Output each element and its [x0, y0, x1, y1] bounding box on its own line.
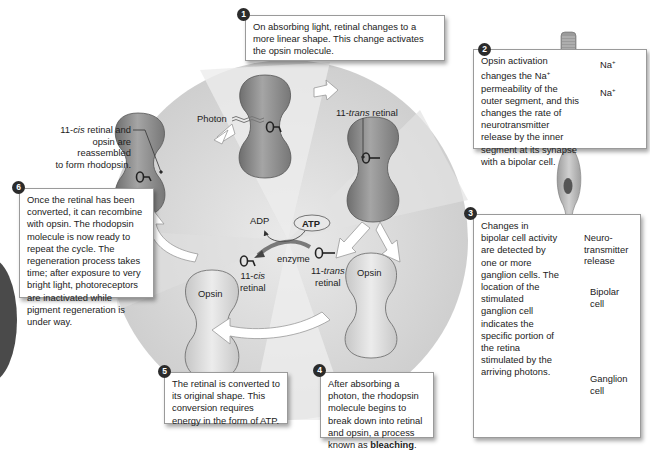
step-2-text-post: permeability of the outer segment, and t… [481, 83, 579, 167]
atp-label: ATP [302, 218, 320, 230]
neurotransmitter-release-label: Neuro- transmitter release [584, 232, 628, 267]
reassembled-label: 11-cis retinal and opsin are reassembled… [55, 124, 131, 170]
step-5-badge: 5 [158, 365, 171, 378]
step-1-box: On absorbing light, retinal changes to a… [245, 15, 445, 61]
step-2-box: Opsin activation changes the Na+ permeab… [473, 49, 647, 149]
step-6-box: Once the retinal has been converted, it … [19, 188, 154, 298]
step-5-box: The retinal is converted to its original… [164, 372, 288, 424]
step-2-text-sup: + [547, 70, 551, 76]
na-label-1: Na+ [600, 57, 616, 71]
step-4-text-post: . [414, 439, 417, 450]
step-2-text-pre: Opsin activation changes the Na [481, 55, 548, 81]
step-6-text: Once the retinal has been converted, it … [27, 194, 142, 327]
opsin-left-label: Opsin [198, 288, 223, 300]
step-6-badge: 6 [12, 181, 25, 194]
step-2-badge: 2 [478, 43, 491, 56]
step-3-text: Changes in bipolar cell activity are det… [481, 220, 559, 377]
step-1-text: On absorbing light, retinal changes to a… [253, 21, 424, 56]
adp-label: ADP [250, 215, 269, 227]
trans-retinal-label: 11-trans retinal [311, 265, 345, 288]
enzyme-label: enzyme [277, 253, 310, 265]
na-label-2: Na+ [600, 85, 616, 99]
step-3-badge: 3 [464, 207, 477, 220]
trans-retinal-top-label: 11-trans retinal [336, 107, 398, 119]
cis-retinal-label: 11-cis retinal [240, 270, 266, 293]
step-5-text: The retinal is converted to its original… [172, 378, 280, 426]
photon-label: Photon [197, 113, 227, 125]
left-edge-shape [0, 258, 17, 382]
bipolar-cell-label: Bipolar cell [590, 286, 619, 309]
step-4-badge: 4 [313, 364, 326, 377]
step-4-text-bold: bleaching [370, 439, 414, 450]
opsin-right-label: Opsin [357, 267, 382, 279]
step-4-box: After absorbing a photon, the rhodopsin … [320, 372, 434, 438]
ganglion-cell-label: Ganglion cell [590, 373, 628, 396]
step-1-badge: 1 [237, 8, 250, 21]
